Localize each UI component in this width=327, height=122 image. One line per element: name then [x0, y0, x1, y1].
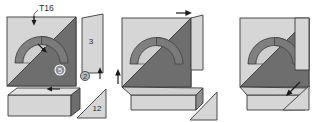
- panel3-bottom-bar-top: [240, 87, 309, 95]
- panel2-bottom-bar-top: [122, 87, 203, 95]
- diagram-canvas: 5 T16 3 2 12: [0, 0, 327, 122]
- panel3-right-strip: [295, 18, 309, 70]
- panel-1: 5 T16 3 2 12: [7, 3, 106, 118]
- panel1-label-3: 3: [89, 37, 94, 46]
- panel-3: [240, 18, 309, 110]
- panel1-bottom-bar-top: [8, 88, 80, 95]
- panel1-label-12: 12: [93, 104, 102, 113]
- panel1-label-2: 2: [83, 72, 87, 81]
- panel1-bottom-bar: [8, 95, 71, 116]
- assembly-diagram: 5 T16 3 2 12: [0, 0, 327, 122]
- panel2-bottom-bar: [131, 95, 196, 110]
- panel2-right-strip: [191, 15, 203, 70]
- panel1-corner-triangle: [77, 89, 106, 118]
- panel1-badge-5-text: 5: [58, 66, 62, 75]
- panel1-label-t16: T16: [39, 3, 54, 13]
- panel-2: [118, 13, 217, 120]
